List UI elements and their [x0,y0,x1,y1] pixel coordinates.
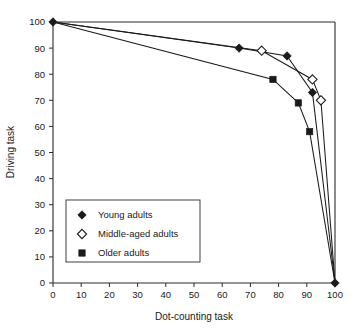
chart-background [0,0,358,336]
x-tick-label-90: 90 [302,289,313,300]
legend-label: Middle-aged adults [98,228,179,239]
data-point [306,128,312,134]
y-tick-label-0: 0 [40,277,45,288]
y-tick-label-30: 30 [34,199,45,210]
x-tick-label-50: 50 [189,289,200,300]
y-tick-label-80: 80 [34,69,45,80]
x-tick-label-40: 40 [161,289,172,300]
poc-curve-chart: 0102030405060708090100 01020304050607080… [0,0,358,336]
data-point [270,76,276,82]
x-tick-label-60: 60 [217,289,228,300]
y-tick-label-50: 50 [34,147,45,158]
x-tick-label-70: 70 [245,289,256,300]
data-point [295,100,301,106]
chart-canvas: 0102030405060708090100 01020304050607080… [0,0,358,336]
x-tick-label-0: 0 [50,289,55,300]
x-tick-label-20: 20 [104,289,115,300]
chart-legend: Young adultsMiddle-aged adultsOlder adul… [66,200,200,262]
y-tick-label-90: 90 [34,43,45,54]
legend-label: Young adults [98,209,153,220]
y-tick-label-40: 40 [34,173,45,184]
y-tick-label-10: 10 [34,251,45,262]
x-tick-label-80: 80 [273,289,284,300]
x-tick-label-30: 30 [132,289,143,300]
y-tick-label-60: 60 [34,121,45,132]
legend-label: Older adults [98,247,149,258]
y-axis-title: Driving task [5,125,16,178]
x-tick-label-100: 100 [327,289,343,300]
legend-marker-filled-square [79,250,85,256]
x-axis-title: Dot-counting task [155,311,234,322]
y-tick-label-20: 20 [34,225,45,236]
y-tick-label-70: 70 [34,95,45,106]
x-tick-label-10: 10 [76,289,87,300]
y-tick-label-100: 100 [29,16,45,27]
